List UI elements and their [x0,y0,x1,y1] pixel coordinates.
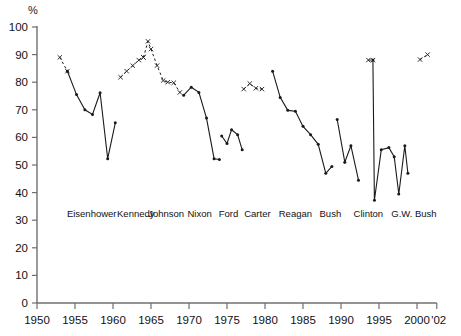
x-tick-label-end: '02 [431,314,446,326]
x-tick-label: 1965 [138,314,164,326]
series-marker-dot [294,110,297,113]
series-marker-dot [230,128,233,131]
series-marker-x [172,81,176,85]
series-marker-dot [406,172,409,175]
series-marker-dot [336,118,339,121]
x-tick-label: 1980 [252,314,278,326]
series-marker-dot [387,146,390,149]
series-marker-x [124,69,128,73]
series-marker-dot [279,96,282,99]
series-marker-dot [75,93,78,96]
series-marker-dot [373,199,376,202]
x-tick-label: 1960 [100,314,126,326]
y-tick-label: 10 [15,269,28,281]
series-line-kennedy [121,57,144,77]
series-marker-dot [397,192,400,195]
y-tick-label: 0 [22,297,28,309]
series-marker-x [137,58,141,62]
series-marker-x [155,63,159,67]
president-label-johnson: Johnson [148,208,184,219]
series-marker-dot [226,142,229,145]
x-tick-label: 1975 [214,314,240,326]
series-marker-dot [99,91,102,94]
series-marker-x [425,52,429,56]
series-marker-dot [66,70,69,73]
series-line-nixon [184,87,220,159]
series-marker-x [131,63,135,67]
series-marker-dot [271,70,274,73]
series-marker-dot [380,148,383,151]
series-marker-x [166,80,170,84]
series-marker-dot [330,165,333,168]
series-marker-dot [309,133,312,136]
series-line-clinton [373,60,408,200]
series-marker-dot [324,172,327,175]
series-marker-dot [343,161,346,164]
series-marker-dot [83,108,86,111]
y-tick-label: 100 [9,21,28,33]
series-line-carter [244,84,262,90]
series-marker-x [248,81,252,85]
series-marker-dot [236,133,239,136]
president-label-reagan: Reagan [279,208,312,219]
x-tick-label: 1950 [24,314,50,326]
series-marker-dot [317,143,320,146]
series-line-ford [222,130,243,150]
president-label-clinton: Clinton [354,208,384,219]
series-marker-dot [302,125,305,128]
series-marker-dot [220,135,223,138]
series-marker-dot [190,86,193,89]
y-tick-label: 50 [15,159,28,171]
x-tick-label: 1985 [290,314,316,326]
series-marker-dot [213,157,216,160]
president-label-eisenhower: Eisenhower [67,208,117,219]
series-marker-x [118,75,122,79]
y-tick-label: 30 [15,214,28,226]
series-marker-x [149,47,153,51]
series-line-johnson [143,41,180,92]
series-marker-dot [106,157,109,160]
series-marker-dot [349,144,352,147]
series-line-reagan [273,71,332,173]
x-tick-label: 1955 [62,314,88,326]
y-tick-label: 80 [15,76,28,88]
president-label-nixon: Nixon [187,208,211,219]
series-marker-dot [357,179,360,182]
series-marker-dot [182,94,185,97]
series-marker-x [242,87,246,91]
series-marker-dot [241,148,244,151]
series-marker-x [178,90,182,94]
president-label-bush: Bush [320,208,342,219]
chart-plot-area: 0102030405060708090100195019551960196519… [0,0,461,336]
series-marker-dot [403,144,406,147]
series-marker-dot [218,158,221,161]
y-tick-label: 90 [15,49,28,61]
x-tick-label: 1990 [328,314,354,326]
y-tick-label: 40 [15,187,28,199]
y-tick-label: 20 [15,242,28,254]
series-line-bush [337,120,358,181]
series-marker-dot [197,91,200,94]
president-label-carter: Carter [244,208,270,219]
series-line-eisenhower [60,57,68,71]
x-tick-label: 1970 [176,314,202,326]
x-tick-label: 2000 [404,314,430,326]
series-marker-dot [114,121,117,124]
president-label-g-w-bush: G.W. Bush [391,208,436,219]
y-tick-label: 60 [15,131,28,143]
series-marker-x [58,55,62,59]
series-marker-x [418,57,422,61]
series-marker-dot [393,155,396,158]
series-marker-dot [205,117,208,120]
y-tick-label: 70 [15,104,28,116]
chart-container: % 01020304050607080901001950195519601965… [0,0,461,336]
president-label-ford: Ford [219,208,239,219]
series-marker-dot [91,113,94,116]
series-marker-dot [286,109,289,112]
x-tick-label: 1995 [366,314,392,326]
